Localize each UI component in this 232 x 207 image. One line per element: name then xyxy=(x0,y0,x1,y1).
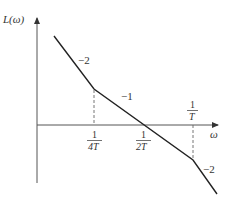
bode-diagram: L(ω) ω −2 −1 −2 1 4T 1 2T 1 T xyxy=(0,0,232,207)
svg-text:1: 1 xyxy=(190,99,195,110)
svg-text:1: 1 xyxy=(141,129,146,140)
slope-label-1: −2 xyxy=(78,54,90,66)
tick-label-1-T: 1 T xyxy=(187,99,198,122)
svg-text:T: T xyxy=(189,111,196,122)
svg-text:4T: 4T xyxy=(88,141,100,152)
svg-text:1: 1 xyxy=(92,129,97,140)
tick-label-1-4T: 1 4T xyxy=(87,129,102,152)
y-axis-label: L(ω) xyxy=(2,13,25,26)
svg-text:2T: 2T xyxy=(136,141,148,152)
slope-label-2: −1 xyxy=(121,90,133,102)
slope-label-3: −2 xyxy=(203,163,215,175)
x-axis-label: ω xyxy=(210,128,218,140)
tick-label-1-2T: 1 2T xyxy=(136,129,151,152)
